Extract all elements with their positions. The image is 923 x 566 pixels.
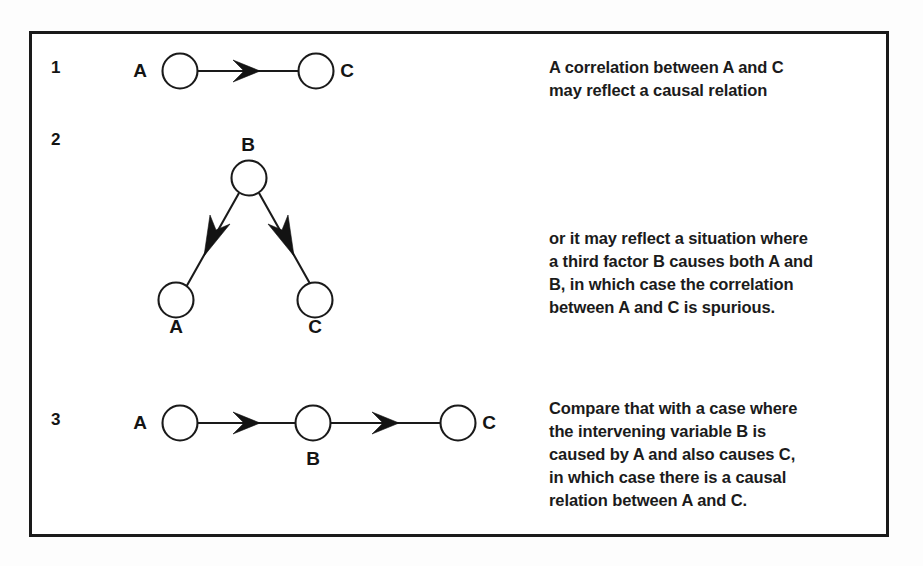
figure-frame: 1 A C A correlation between A and C may … <box>29 31 889 537</box>
row3-node-c <box>441 406 476 441</box>
row3-caption-line-3: caused by A and also causes C, <box>549 443 899 466</box>
row3-caption-line-5: relation between A and C. <box>549 489 899 512</box>
figure-page: 1 A C A correlation between A and C may … <box>0 0 923 566</box>
row3-node-b <box>296 406 331 441</box>
row3-caption: Compare that with a case where the inter… <box>549 397 899 512</box>
row3-node-a <box>163 406 198 441</box>
row3-caption-line-1: Compare that with a case where <box>549 397 899 420</box>
row3-caption-line-4: in which case there is a causal <box>549 466 899 489</box>
row3-caption-line-2: the intervening variable B is <box>549 420 899 443</box>
